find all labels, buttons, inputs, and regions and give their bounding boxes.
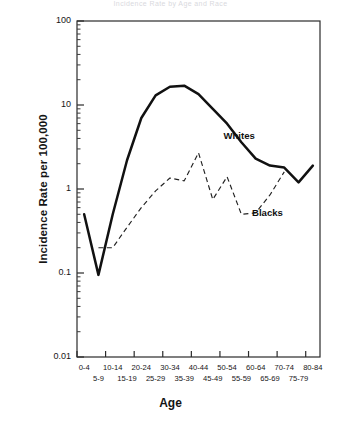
y-tick-label: 0.1: [31, 267, 71, 277]
y-axis-ticks: [77, 21, 84, 357]
y-tick-label: 1: [31, 183, 71, 193]
y-tick-label: 10: [31, 99, 71, 109]
series-label-blacks: Blacks: [252, 207, 283, 218]
plot-frame: [77, 21, 320, 357]
chart-figure: Incidence Rate by Age and Race Incidence…: [0, 0, 341, 421]
series-label-whites: Whites: [223, 130, 254, 141]
y-tick-label: 100: [31, 15, 71, 25]
x-tick-label: 75-79: [282, 374, 316, 383]
y-tick-label: 0.01: [31, 351, 71, 361]
data-series-group: [84, 86, 313, 275]
x-tick-label: 80-84: [296, 363, 330, 372]
x-axis-ticks: [77, 351, 306, 357]
